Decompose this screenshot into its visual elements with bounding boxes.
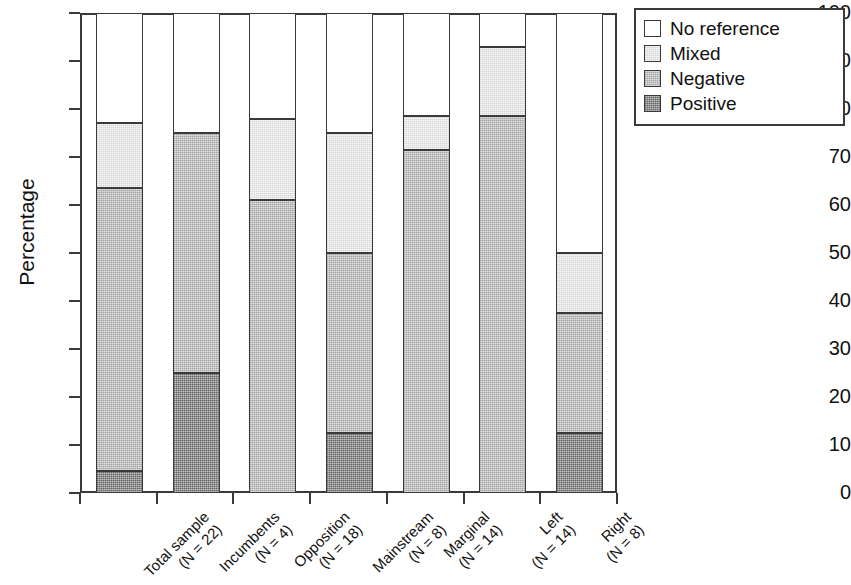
bar-4[interactable] <box>326 13 373 493</box>
bar-segment-mixed[interactable] <box>326 133 373 253</box>
legend-label-negative: Negative <box>670 68 745 89</box>
x-axis-tick <box>79 493 81 504</box>
bar-segment-negative[interactable] <box>403 150 450 493</box>
bar-3[interactable] <box>249 13 296 493</box>
y-axis-tick <box>69 204 80 206</box>
x-axis-label-1: Total sample(N = 22) <box>140 508 225 585</box>
x-axis-label-4: Mainstream(N = 8) <box>368 508 449 585</box>
bar-segment-no-reference[interactable] <box>326 13 373 133</box>
bar-segment-mixed[interactable] <box>96 123 143 188</box>
legend-item[interactable]: Mixed <box>644 41 835 66</box>
x-axis-tick <box>463 493 465 504</box>
bar-segment-negative[interactable] <box>326 253 373 433</box>
bar-segment-positive[interactable] <box>173 373 220 493</box>
x-axis-tick <box>232 493 234 504</box>
legend-item[interactable]: Negative <box>644 66 835 91</box>
x-axis-tick <box>386 493 388 504</box>
bar-segment-negative[interactable] <box>556 313 603 433</box>
bar-segment-no-reference[interactable] <box>403 13 450 116</box>
bar-segment-no-reference[interactable] <box>556 13 603 253</box>
bar-segment-positive[interactable] <box>556 433 603 493</box>
bar-segment-negative[interactable] <box>173 133 220 373</box>
bar-segment-negative[interactable] <box>96 188 143 471</box>
bar-segment-positive[interactable] <box>96 471 143 493</box>
bar-segment-no-reference[interactable] <box>96 13 143 123</box>
stacked-bar-chart: Percentage 0102030405060708090100 Total … <box>0 0 851 585</box>
y-axis-tick <box>69 156 80 158</box>
y-axis-tick-label: 10 <box>793 434 851 454</box>
y-axis-tick-label: 50 <box>793 242 851 262</box>
bar-segment-no-reference[interactable] <box>173 13 220 133</box>
y-axis-tick <box>69 348 80 350</box>
bar-segment-mixed[interactable] <box>249 119 296 201</box>
bar-segment-negative[interactable] <box>479 116 526 493</box>
bar-segment-no-reference[interactable] <box>249 13 296 119</box>
bar-2[interactable] <box>173 13 220 493</box>
y-axis-tick <box>69 300 80 302</box>
legend-swatch-positive <box>644 95 661 112</box>
bar-segment-no-reference[interactable] <box>479 13 526 47</box>
y-axis-tick <box>69 60 80 62</box>
legend-item[interactable]: No reference <box>644 16 835 41</box>
legend-swatch-no-reference <box>644 20 661 37</box>
bar-1[interactable] <box>96 13 143 493</box>
bar-segment-negative[interactable] <box>249 200 296 493</box>
legend-item[interactable]: Positive <box>644 91 835 116</box>
bar-6[interactable] <box>479 13 526 493</box>
y-axis-tick-label: 0 <box>793 482 851 502</box>
y-axis-tick <box>69 396 80 398</box>
y-axis-tick-label: 20 <box>793 386 851 406</box>
bar-segment-mixed[interactable] <box>479 47 526 116</box>
x-axis-tick <box>156 493 158 504</box>
legend-swatch-mixed <box>644 45 661 62</box>
x-axis-tick <box>309 493 311 504</box>
x-axis-label-5: Marginal(N = 14) <box>439 508 505 574</box>
bar-segment-mixed[interactable] <box>556 253 603 313</box>
y-axis-title: Percentage <box>15 132 39 332</box>
y-axis-tick-label: 40 <box>793 290 851 310</box>
x-axis-label-7: Right(N = 8) <box>589 508 647 566</box>
x-axis-tick <box>539 493 541 504</box>
legend-swatch-negative <box>644 70 661 87</box>
bar-segment-positive[interactable] <box>326 433 373 493</box>
legend-label-positive: Positive <box>670 93 737 114</box>
y-axis-tick <box>69 108 80 110</box>
y-axis-tick-label: 30 <box>793 338 851 358</box>
x-axis-label-3: Opposition(N = 18) <box>290 508 366 584</box>
y-axis-tick-label: 60 <box>793 194 851 214</box>
bar-segment-mixed[interactable] <box>403 116 450 151</box>
x-axis-tick <box>616 493 618 504</box>
bar-5[interactable] <box>403 13 450 493</box>
y-axis-tick-label: 70 <box>793 146 851 166</box>
legend-label-no-reference: No reference <box>670 18 780 39</box>
x-axis-label-6: Left(N = 14) <box>514 508 578 572</box>
y-axis-tick <box>69 444 80 446</box>
legend-label-mixed: Mixed <box>670 43 721 64</box>
legend: No reference Mixed Negative Positive <box>634 8 845 126</box>
x-axis-label-2: Incumbents(N = 4) <box>215 508 295 585</box>
y-axis-tick <box>69 252 80 254</box>
bars-layer <box>80 13 617 493</box>
y-axis-tick <box>69 12 80 14</box>
bar-7[interactable] <box>556 13 603 493</box>
